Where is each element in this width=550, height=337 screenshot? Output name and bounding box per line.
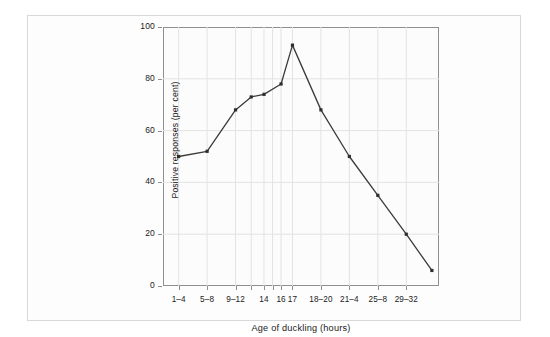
x-axis-tick-label: 1–4 <box>172 295 186 304</box>
x-axis-tick-label: 25–8 <box>369 295 388 304</box>
x-axis-tick-mark <box>251 286 252 290</box>
chart-series-line <box>163 27 439 286</box>
x-axis-tick-label: 16 <box>276 295 285 304</box>
x-axis-tick-mark <box>406 286 407 290</box>
y-axis-title: Positive responses (per cent) <box>170 40 180 240</box>
x-axis-tick-mark <box>378 286 379 290</box>
x-axis-tick-label: 9–12 <box>226 295 245 304</box>
x-axis-tick-mark <box>179 286 180 290</box>
x-axis-tick-label: 21–4 <box>340 295 359 304</box>
chart-plot-wrapper: 020406080100 1–45–89–1214161718–2021–425… <box>163 27 439 286</box>
data-point <box>348 155 351 158</box>
y-axis-tick-label: 20 <box>121 228 155 238</box>
y-axis-tick-mark <box>158 79 162 80</box>
y-axis-tick-label: 100 <box>121 21 155 31</box>
data-point <box>279 82 282 85</box>
figure-panel: 020406080100 1–45–89–1214161718–2021–425… <box>27 15 521 321</box>
data-point <box>319 108 322 111</box>
x-axis-tick-mark <box>207 286 208 290</box>
y-axis-tick-mark <box>158 131 162 132</box>
x-axis-tick-mark <box>292 286 293 290</box>
data-point <box>250 95 253 98</box>
x-axis-tick-mark <box>349 286 350 290</box>
data-point <box>262 93 265 96</box>
x-axis-tick-mark <box>236 286 237 290</box>
y-axis-tick-mark <box>158 286 162 287</box>
x-axis-tick-mark <box>281 286 282 290</box>
data-point <box>430 269 433 272</box>
x-axis-tick-label: 5–8 <box>200 295 214 304</box>
data-point <box>234 108 237 111</box>
x-axis-title: Age of duckling (hours) <box>163 323 439 333</box>
y-axis-tick-label: 60 <box>121 125 155 135</box>
x-axis-tick-mark <box>264 286 265 290</box>
data-point <box>405 233 408 236</box>
data-point <box>376 194 379 197</box>
x-axis-tick-mark <box>321 286 322 290</box>
x-axis-tick-label: 18–20 <box>309 295 332 304</box>
x-axis-tick-label: 17 <box>288 295 297 304</box>
x-axis-tick-label: 29–32 <box>395 295 418 304</box>
y-axis-tick-mark <box>158 182 162 183</box>
y-axis-tick-label: 80 <box>121 73 155 83</box>
x-axis-tick-mark <box>273 286 274 290</box>
y-axis-tick-mark <box>158 27 162 28</box>
data-point <box>206 150 209 153</box>
y-axis-tick-label: 40 <box>121 176 155 186</box>
y-axis-tick-mark <box>158 234 162 235</box>
x-axis-tick-label: 14 <box>259 295 268 304</box>
y-axis-tick-label: 0 <box>121 280 155 290</box>
data-point <box>291 44 294 47</box>
